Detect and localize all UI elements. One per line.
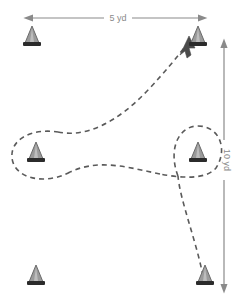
cone-bottom-right xyxy=(196,265,214,285)
route-cross-lower xyxy=(70,165,160,174)
route-segment-start xyxy=(178,176,203,276)
cone-top-right xyxy=(189,26,207,46)
height-dimension-label: 10 yd xyxy=(222,149,232,171)
diagram-svg: 5 yd 10 yd xyxy=(0,0,245,299)
cone-top-left xyxy=(23,26,41,46)
cone-middle-right xyxy=(189,142,207,162)
width-dimension-label: 5 yd xyxy=(109,13,126,23)
cone-bottom-left xyxy=(27,265,45,285)
width-dimension: 5 yd xyxy=(33,13,199,23)
height-dimension: 10 yd xyxy=(222,48,232,285)
drill-diagram-canvas: 5 yd 10 yd xyxy=(0,0,245,299)
route-cross-upper xyxy=(58,44,187,133)
cone-middle-left xyxy=(27,142,45,162)
route-loop-right xyxy=(160,126,222,177)
